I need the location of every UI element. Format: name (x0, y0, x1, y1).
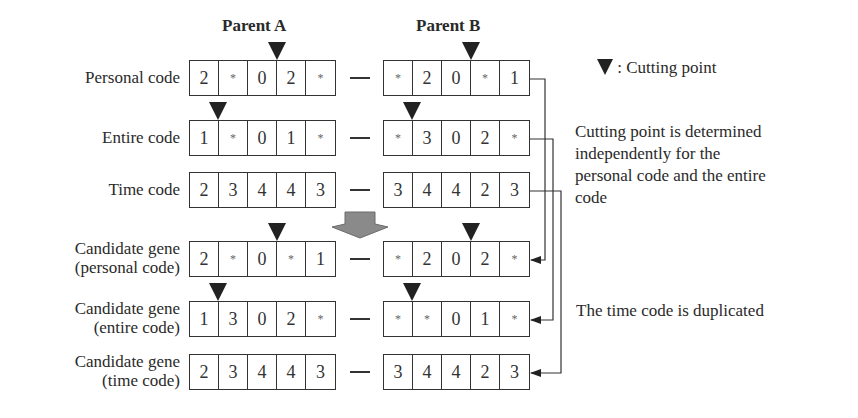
connector-lines (0, 0, 858, 418)
